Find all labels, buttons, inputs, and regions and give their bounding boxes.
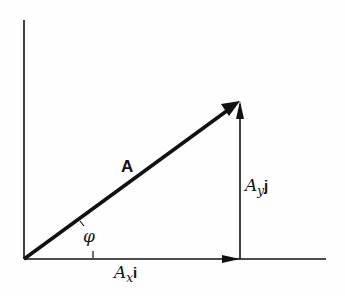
y-component-symbol: A bbox=[245, 175, 257, 195]
x-component-label: Axi bbox=[114, 262, 137, 285]
diagram-canvas bbox=[0, 0, 345, 296]
vector-a bbox=[24, 110, 228, 259]
x-component-arrowhead bbox=[222, 255, 240, 263]
x-component-symbol: A bbox=[114, 262, 126, 282]
vector-components-diagram: A φ Axi Ayj bbox=[0, 0, 345, 296]
x-component-unit: i bbox=[133, 264, 137, 281]
vector-a-label: A bbox=[121, 157, 133, 177]
y-component-label: Ayj bbox=[245, 175, 268, 198]
angle-phi-label: φ bbox=[83, 226, 95, 246]
y-component-unit: j bbox=[264, 177, 268, 194]
